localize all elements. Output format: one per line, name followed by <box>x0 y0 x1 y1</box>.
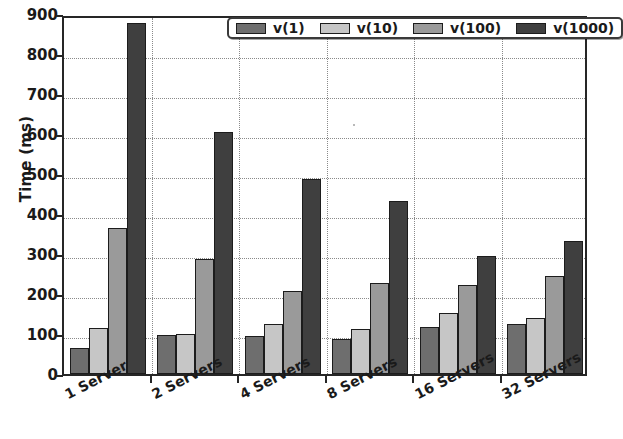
y-axis-tick-label: 700 <box>12 88 58 103</box>
y-axis-tick-label: 200 <box>12 288 58 303</box>
legend-swatch <box>320 23 350 34</box>
x-axis-tick-mark <box>500 376 502 383</box>
vertical-gridline <box>502 18 503 374</box>
x-axis-tick-mark <box>412 376 414 383</box>
y-axis-tick-label: 600 <box>12 128 58 143</box>
bar <box>245 336 264 374</box>
bar <box>507 324 526 374</box>
bar <box>127 23 146 374</box>
bar <box>420 327 439 374</box>
bar <box>214 132 233 374</box>
x-axis-tick-mark <box>325 376 327 383</box>
chart-legend[interactable]: v(1)v(10)v(100)v(1000) <box>227 17 623 39</box>
bar <box>302 179 321 374</box>
y-axis-tick-label: 0 <box>12 368 58 383</box>
bar <box>108 228 127 374</box>
vertical-gridline <box>152 18 153 374</box>
y-axis-label: Time (ms) <box>17 99 35 219</box>
y-axis-tick-label: 400 <box>12 208 58 223</box>
y-axis-tick-label: 100 <box>12 328 58 343</box>
legend-label: v(10) <box>357 21 398 35</box>
vertical-gridline <box>239 18 240 374</box>
vertical-gridline <box>327 18 328 374</box>
bar <box>389 201 408 374</box>
legend-entry[interactable]: v(10) <box>320 21 398 35</box>
x-axis-tick-mark <box>150 376 152 383</box>
y-axis-tick-label: 900 <box>12 8 58 23</box>
bar <box>332 339 351 374</box>
y-axis-tick-label: 300 <box>12 248 58 263</box>
plot-area <box>62 16 587 376</box>
legend-label: v(100) <box>450 21 501 35</box>
image-artifact-speck <box>353 124 355 126</box>
legend-entry[interactable]: v(100) <box>413 21 501 35</box>
legend-entry[interactable]: v(1000) <box>516 21 614 35</box>
legend-swatch <box>413 23 443 34</box>
legend-label: v(1000) <box>553 21 614 35</box>
bar <box>157 335 176 374</box>
y-axis-tick-label: 500 <box>12 168 58 183</box>
legend-entry[interactable]: v(1) <box>236 21 305 35</box>
vertical-gridline <box>414 18 415 374</box>
y-axis-tick-label: 800 <box>12 48 58 63</box>
legend-swatch <box>236 23 266 34</box>
x-axis-tick-mark <box>237 376 239 383</box>
legend-swatch <box>516 23 546 34</box>
legend-label: v(1) <box>273 21 305 35</box>
bar <box>70 348 89 374</box>
